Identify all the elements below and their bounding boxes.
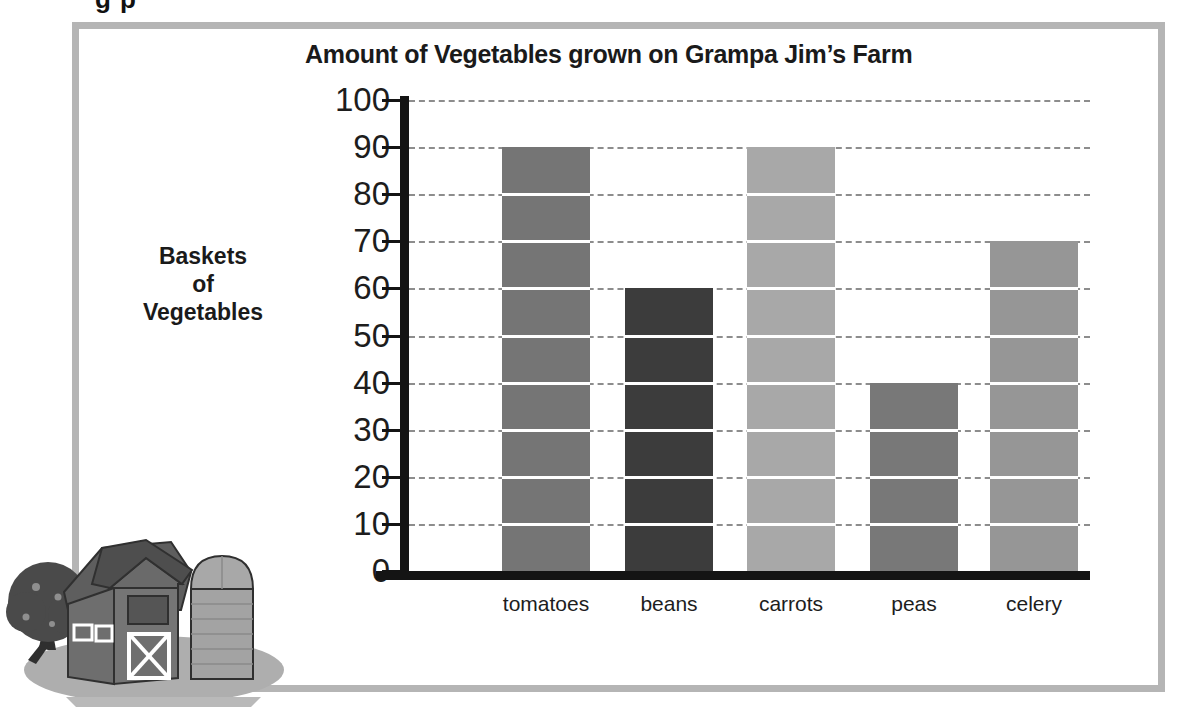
bar-gridline-break — [502, 240, 590, 243]
bar-gridline-break — [747, 382, 835, 385]
bar-gridline-breaks — [747, 147, 835, 571]
barn — [64, 540, 192, 684]
y-axis-tick-label: 50 — [280, 319, 390, 352]
bar-gridline-break — [625, 523, 713, 526]
y-axis-tick — [382, 99, 408, 102]
bar-tomatoes — [502, 147, 590, 571]
bar-gridline-breaks — [870, 383, 958, 571]
bar-gridline-break — [870, 476, 958, 479]
bar-gridline-break — [990, 335, 1078, 338]
x-axis-tick-label: beans — [599, 592, 739, 616]
y-axis-tick — [382, 570, 408, 573]
bar-gridline-breaks — [502, 147, 590, 571]
chart-title: Amount of Vegetables grown on Grampa Jim… — [305, 40, 945, 69]
y-axis-tick-label: 80 — [280, 177, 390, 210]
bar-gridline-break — [502, 193, 590, 196]
tree-leaf-highlight — [32, 583, 40, 591]
ground-shadow — [66, 697, 261, 707]
bar-gridline-break — [747, 523, 835, 526]
y-axis-line — [400, 96, 409, 580]
barn-window-left — [74, 625, 92, 640]
bar-gridline-break — [870, 523, 958, 526]
bar-gridline-break — [747, 476, 835, 479]
bar-beans — [625, 288, 713, 571]
x-axis-tick-label: celery — [964, 592, 1104, 616]
bar-gridline-break — [625, 429, 713, 432]
bar-gridline-break — [990, 476, 1078, 479]
y-axis-tick-label: 100 — [280, 83, 390, 116]
x-axis-line — [376, 571, 1090, 580]
y-axis-tick — [382, 429, 408, 432]
x-axis-tick-label: tomatoes — [476, 592, 616, 616]
y-axis-tick-label: 10 — [280, 507, 390, 540]
barn-window-right — [96, 626, 112, 641]
bar-gridline-break — [502, 429, 590, 432]
y-axis-tick — [382, 146, 408, 149]
cut-off-text-remnant: g p — [95, 0, 137, 15]
bar-gridline-break — [625, 335, 713, 338]
y-axis-tick-label: 0 — [280, 554, 390, 587]
y-axis-tick — [382, 382, 408, 385]
y-axis-tick — [382, 287, 408, 290]
barn-hayloft-window — [128, 596, 168, 624]
plot-area — [400, 96, 1090, 580]
y-axis-tick — [382, 523, 408, 526]
farm-illustration — [6, 492, 296, 712]
y-axis-tick-label: 60 — [280, 271, 390, 304]
y-axis-tick — [382, 335, 408, 338]
bar-gridline-break — [747, 240, 835, 243]
y-axis-tick-label: 70 — [280, 224, 390, 257]
y-axis-tick-label: 40 — [280, 366, 390, 399]
bar-gridline-break — [502, 287, 590, 290]
bar-gridline-break — [990, 429, 1078, 432]
bar-gridline-break — [990, 382, 1078, 385]
y-axis-tick-label: 30 — [280, 413, 390, 446]
bar-gridline-breaks — [990, 241, 1078, 571]
bar-peas — [870, 383, 958, 571]
silo — [191, 556, 253, 679]
bar-gridline-break — [747, 193, 835, 196]
bar-gridline-breaks — [625, 288, 713, 571]
x-axis-tick-label: peas — [844, 592, 984, 616]
tree-leaf-highlight — [55, 594, 62, 601]
bar-gridline-break — [625, 382, 713, 385]
bar-gridline-break — [747, 335, 835, 338]
bar-gridline-break — [747, 429, 835, 432]
tree-foliage-left — [6, 592, 46, 632]
bar-gridline-break — [502, 382, 590, 385]
bar-carrots — [747, 147, 835, 571]
y-axis-tick — [382, 193, 408, 196]
bar-gridline-break — [990, 523, 1078, 526]
y-axis-tick — [382, 476, 408, 479]
y-axis-tick-label: 90 — [280, 130, 390, 163]
bar-gridline-break — [747, 287, 835, 290]
bar-gridline-break — [502, 476, 590, 479]
bar-gridline-break — [502, 335, 590, 338]
y-axis-tick-label: 20 — [280, 460, 390, 493]
bar-gridline-break — [870, 429, 958, 432]
tree-leaf-highlight — [23, 614, 30, 621]
y-axis-tick — [382, 240, 408, 243]
tree-leaf-highlight — [49, 621, 55, 627]
bar-gridline-break — [990, 287, 1078, 290]
bar-celery — [990, 241, 1078, 571]
gridline — [409, 100, 1090, 102]
x-axis-tick-label: carrots — [721, 592, 861, 616]
y-axis-tick-labels: 1009080706050403020100 — [280, 96, 390, 580]
bar-gridline-break — [625, 476, 713, 479]
bar-gridline-break — [502, 523, 590, 526]
